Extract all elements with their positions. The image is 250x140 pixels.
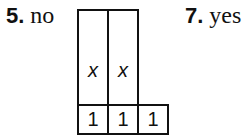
x-tile: x bbox=[107, 9, 139, 106]
item-number: 5. bbox=[6, 3, 24, 28]
answer-item-5: 5. no bbox=[6, 2, 54, 29]
item-answer: no bbox=[30, 2, 54, 28]
item-number: 7. bbox=[185, 3, 203, 28]
unit-tile: 1 bbox=[107, 104, 139, 135]
unit-tile: 1 bbox=[77, 104, 109, 135]
item-answer: yes bbox=[209, 2, 241, 28]
x-tile: x bbox=[77, 9, 109, 106]
answer-item-7: 7. yes bbox=[185, 2, 241, 29]
unit-tile: 1 bbox=[137, 104, 169, 135]
